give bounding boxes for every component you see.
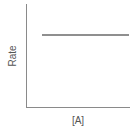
x-axis-label: [A]: [72, 115, 84, 126]
rate-vs-concentration-chart: Rate [A]: [0, 0, 137, 135]
y-axis-label: Rate: [7, 45, 18, 67]
